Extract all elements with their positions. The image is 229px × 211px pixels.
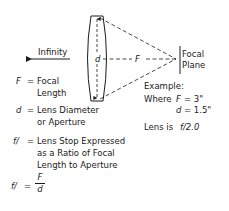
legend-f-line3: Length to Aperture <box>37 160 117 170</box>
legend-f-eq: = <box>27 136 34 146</box>
example-result-value: f/2.0 <box>180 122 199 132</box>
legend-f-line2: as a Ratio of Focal <box>37 148 115 158</box>
legend-d-symbol: d <box>16 105 21 115</box>
formula-fraction: F d <box>35 173 45 194</box>
legend-d-eq: = <box>27 105 34 115</box>
example-d-value: = 1.5" <box>184 105 211 115</box>
example-F-value: = 3" <box>184 94 203 104</box>
formula-eq: = <box>24 181 31 191</box>
infinity-label: Infinity <box>38 47 67 57</box>
example-d-symbol: d <box>176 105 181 115</box>
legend-F-symbol: F <box>16 76 21 86</box>
formula-denominator: d <box>37 184 42 194</box>
legend-F-line2: Length <box>37 88 66 98</box>
lens-fstop-diagram: Infinity d F Focal Plane F = Focal Lengt… <box>0 0 229 211</box>
lower-ray <box>100 59 176 99</box>
example-F-symbol: F <box>176 94 181 104</box>
legend-F-line1: Focal <box>37 76 59 86</box>
focal-length-label: F <box>135 54 140 64</box>
example-result-prefix: Lens is <box>144 122 173 132</box>
legend-F-eq: = <box>27 76 34 86</box>
upper-ray <box>100 18 176 59</box>
formula-numerator: F <box>38 172 43 182</box>
example-title: Example: <box>144 81 184 91</box>
lens-diameter-label: d <box>94 54 101 64</box>
legend-f-symbol: f/ <box>13 136 19 146</box>
legend-d-line2: or Aperture <box>37 117 86 127</box>
example-where: Where <box>144 94 172 104</box>
formula-lhs: f/ <box>11 181 17 191</box>
focal-plane-label-1: Focal <box>182 49 204 59</box>
focal-plane-label-2: Plane <box>182 60 205 70</box>
legend-d-line1: Lens Diameter <box>37 105 99 115</box>
legend-f-line1: Lens Stop Expressed <box>37 136 125 146</box>
